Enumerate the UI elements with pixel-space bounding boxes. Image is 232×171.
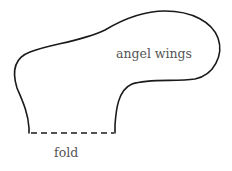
fold-label: fold bbox=[54, 145, 78, 160]
shape-label: angel wings bbox=[116, 46, 192, 61]
angel-wings-pattern-diagram: angel wings fold bbox=[0, 0, 232, 171]
wing-outline bbox=[15, 11, 220, 133]
